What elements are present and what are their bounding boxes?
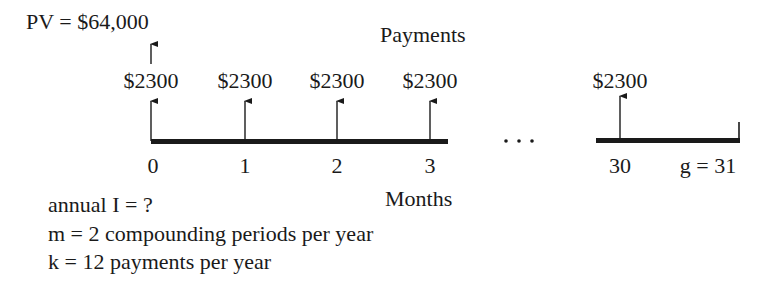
payment-amount: $2300: [403, 68, 458, 94]
present-value-label: PV = $64,000: [26, 9, 149, 35]
period-label: 0: [148, 153, 159, 179]
ellipsis-icon: [504, 139, 534, 143]
timeline-segment-right: [596, 138, 740, 143]
axis-label-months: Months: [385, 186, 452, 212]
payment-amount: $2300: [310, 68, 365, 94]
note-annual-interest: annual I = ?: [48, 192, 153, 218]
note-compounding-periods: m = 2 compounding periods per year: [48, 221, 373, 247]
period-label: 1: [240, 153, 251, 179]
final-period-label: g = 31: [680, 153, 736, 179]
payment-amount: $2300: [218, 68, 273, 94]
timeline-segment-left: [151, 139, 448, 144]
payment-amount: $2300: [593, 68, 648, 94]
note-payments-per-year: k = 12 payments per year: [48, 249, 271, 275]
payment-amount: $2300: [124, 68, 179, 94]
period-label: 3: [425, 153, 436, 179]
period-label: 2: [332, 153, 343, 179]
period-label: 30: [609, 153, 631, 179]
payments-title: Payments: [380, 22, 466, 48]
